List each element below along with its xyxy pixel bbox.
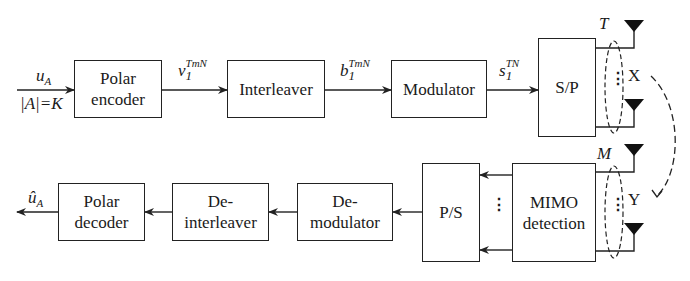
rx-antenna-M-icon	[624, 223, 644, 235]
demodulator-block: De-modulator	[297, 183, 393, 241]
sp-block: S/P	[538, 38, 596, 137]
tx-antenna-feed-T	[596, 109, 634, 127]
input-constraint-label: |A|=K	[20, 94, 63, 114]
mimo-detection-block: MIMOdetection	[512, 163, 596, 262]
polar-decoder-block: Polardecoder	[58, 183, 145, 241]
tx-ellipsis: ⋮	[610, 76, 618, 82]
rx-ellipsis: ⋮	[610, 202, 618, 208]
tx-antenna-group-ellipse	[605, 41, 623, 133]
interleaver-block: Interleaver	[227, 60, 325, 118]
rx-antenna-feed-M	[596, 233, 634, 251]
channel-curve	[651, 76, 675, 195]
input-label: uA	[36, 66, 51, 87]
deinterleaver-block: De-interleaver	[172, 183, 269, 241]
tx-antenna-count-label: T	[599, 14, 608, 34]
polar-encoder-block: Polarencoder	[74, 60, 162, 118]
signal-b-label: bTmN1	[340, 60, 383, 84]
tx-antenna-1-icon	[624, 20, 644, 32]
tx-antenna-T-icon	[624, 99, 644, 111]
ps-input-ellipsis: ⋮	[491, 202, 499, 208]
channel-output-y-label: Y	[628, 190, 640, 210]
rx-antenna-count-label: M	[597, 144, 611, 164]
channel-input-x-label: X	[628, 66, 640, 86]
modulator-block: Modulator	[391, 60, 487, 118]
output-label: ûA	[28, 188, 43, 209]
signal-v-label: vTmN1	[178, 60, 220, 84]
ps-block: P/S	[422, 163, 480, 262]
signal-s-label: sTN1	[499, 60, 540, 84]
rx-antenna-1-icon	[624, 144, 644, 156]
